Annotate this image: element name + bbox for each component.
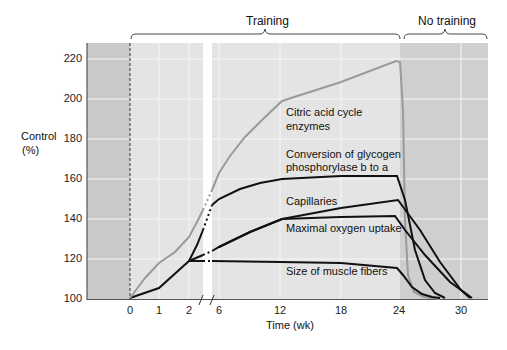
x-tick: 30 [451, 304, 471, 316]
y-tick: 180 [52, 132, 82, 144]
annotation-citric-line2: enzymes [286, 120, 330, 133]
y-tick: 100 [52, 292, 82, 304]
y-tick: 200 [52, 92, 82, 104]
x-axis-label: Time (wk) [266, 319, 314, 332]
x-tick: 12 [270, 304, 290, 316]
y-tick: 140 [52, 212, 82, 224]
annotation-muscle-fibers: Size of muscle fibers [286, 265, 387, 278]
x-tick: 2 [179, 304, 199, 316]
annotation-capillaries: Capillaries [286, 195, 337, 208]
y-tick: 160 [52, 172, 82, 184]
pre-training-region [87, 43, 130, 299]
training-phase-label: Training [246, 14, 289, 28]
y-tick: 220 [52, 52, 82, 64]
x-tick: 0 [120, 304, 140, 316]
annotation-phosphorylase-line2: phosphorylase b to a [286, 161, 388, 174]
x-tick: 6 [209, 304, 229, 316]
y-tick: 120 [52, 252, 82, 264]
x-tick: 18 [331, 304, 351, 316]
x-tick: 1 [149, 304, 169, 316]
no-training-region [400, 43, 488, 299]
no-training-phase-label: No training [418, 14, 476, 28]
training-brace [131, 29, 400, 39]
no-training-brace [404, 29, 487, 39]
annotation-citric-line1: Citric acid cycle [286, 106, 362, 119]
annotation-oxygen-uptake: Maximal oxygen uptake [286, 222, 402, 235]
y-axis-label-line2: (%) [22, 144, 39, 157]
annotation-phosphorylase-line1: Conversion of glycogen [286, 148, 401, 161]
x-tick: 24 [389, 304, 409, 316]
